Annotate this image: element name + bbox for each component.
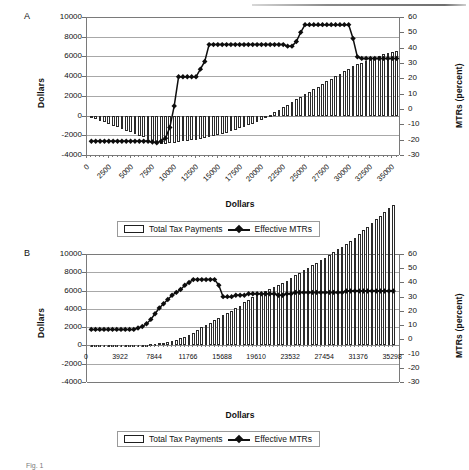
bar [138,116,141,136]
bar [247,300,250,346]
bar [343,71,346,115]
x-axis-minor-tick [133,345,134,347]
x-axis-minor-tick [112,345,113,347]
y2-axis-tick-label: 10 [408,89,438,98]
panel-b-x-axis-title: Dollars [160,410,320,420]
x-axis-minor-tick [231,345,232,347]
x-axis-minor-tick [371,345,372,347]
bar [328,255,331,346]
x-axis-minor-tick [252,345,253,347]
x-axis-minor-tick [175,345,176,347]
x-axis-minor-tick [356,155,357,157]
y2-axis-tick-mark [400,339,404,340]
x-axis-minor-tick [143,155,144,157]
bar [200,327,203,345]
figure-caption: Fig. 1 [26,462,44,470]
x-axis-minor-tick [163,345,164,347]
y2-axis-tick-label: 50 [408,263,438,272]
legend-line-label: Effective MTRs [255,434,312,444]
bar [382,54,385,115]
panel-a-y2-axis-title: MTRs (percent) [454,38,464,128]
x-axis-minor-tick [300,155,301,157]
x-axis-minor-tick [248,345,249,347]
panel-a-x-axis-title: Dollars [160,199,320,209]
x-axis-minor-tick [195,155,196,157]
y2-axis-tick-label: 30 [408,292,438,301]
bar [360,63,363,116]
x-axis-minor-tick [235,345,236,347]
x-axis-minor-tick [388,345,389,347]
bar [281,283,284,346]
x-axis-minor-tick [214,345,215,347]
y-axis-tick-mark [82,116,86,117]
panel-b: B Dollars MTRs (percent) Dollars Total T… [0,238,469,470]
bar [173,116,176,143]
bar [303,270,306,345]
x-axis-tick-label: 7844 [136,353,172,360]
x-axis-minor-tick [204,155,205,157]
y2-axis-tick-mark [400,311,404,312]
bar [337,249,340,345]
y2-axis-tick-mark [400,124,404,125]
y2-axis-tick-mark [400,297,404,298]
y2-axis-tick-label: 40 [408,277,438,286]
bar [304,94,307,115]
x-axis-minor-tick [160,155,161,157]
x-axis-minor-tick [365,155,366,157]
x-axis-minor-tick [243,345,244,347]
x-axis-minor-tick [252,155,253,157]
x-axis-minor-tick [316,345,317,347]
x-axis-minor-tick [354,345,355,347]
x-axis-tick-label: 11766 [170,353,206,360]
x-axis-minor-tick [282,345,283,347]
bar [164,116,167,144]
x-axis-minor-tick [330,155,331,157]
x-axis-minor-tick [287,155,288,157]
bar [315,263,318,346]
x-axis-minor-tick [350,345,351,347]
y2-axis-tick-mark [400,94,404,95]
bar [247,116,250,126]
bar [147,116,150,139]
bar [371,223,374,346]
x-axis-minor-tick [178,155,179,157]
x-axis-minor-tick [117,155,118,157]
bar [103,116,106,123]
x-axis-minor-tick [99,345,100,347]
x-axis-minor-tick [107,345,108,347]
bar [238,116,241,129]
bar [99,116,102,121]
x-axis-minor-tick [256,155,257,157]
panel-b-y2-axis-title: MTRs (percent) [454,268,464,358]
legend-bar-swatch-icon [124,225,144,233]
x-axis-tick-label: 19610 [238,353,274,360]
x-axis-minor-tick [112,155,113,157]
legend-bar-swatch-icon [124,435,144,443]
x-axis-minor-tick [116,345,117,347]
bar [375,219,378,345]
y2-axis-tick-mark [400,32,404,33]
x-axis-minor-tick [303,345,304,347]
bar [230,116,233,132]
y-axis-tick-label: 2000 [38,322,82,331]
bar [251,116,254,124]
bar [155,116,158,143]
bar [221,116,224,134]
bar [273,112,276,115]
bar [311,265,314,345]
x-axis-minor-tick [379,345,380,347]
x-axis-minor-tick [184,345,185,347]
panel-b-legend: Total Tax Payments Effective MTRs [117,431,320,447]
x-axis-minor-tick [222,345,223,347]
bar [392,205,395,346]
x-axis-minor-tick [134,155,135,157]
x-axis-minor-tick [362,345,363,347]
x-axis-tick-label: 15688 [204,353,240,360]
y2-axis-tick-label: 20 [408,73,438,82]
bar [378,56,381,116]
x-axis-minor-tick [120,345,121,347]
x-axis-minor-tick [333,345,334,347]
x-axis-tick-label: 0 [68,353,104,360]
bar [209,323,212,345]
x-axis-minor-tick [90,155,91,157]
